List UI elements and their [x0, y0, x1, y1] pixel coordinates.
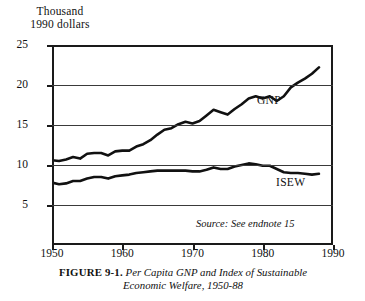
- x-tick-mark: [333, 245, 335, 250]
- y-tick-label: 10: [0, 158, 28, 170]
- caption-line-1: Per Capita GNP and Index of Sustainable: [126, 266, 308, 278]
- y-axis-title: Thousand 1990 dollars: [17, 5, 103, 30]
- caption-figure-number: FIGURE 9-1.: [59, 266, 123, 278]
- y-axis-title-line-1: Thousand: [17, 5, 103, 18]
- series-label-isew: ISEW: [276, 176, 305, 188]
- y-axis-title-line-2: 1990 dollars: [17, 18, 103, 31]
- figure-caption: FIGURE 9-1. Per Capita GNP and Index of …: [18, 266, 348, 292]
- figure-container: Thousand 1990 dollars 510152025 19501960…: [0, 0, 365, 301]
- gridline: [52, 165, 333, 166]
- x-tick-mark: [263, 245, 265, 250]
- x-tick-mark: [193, 245, 195, 250]
- x-tick-mark: [122, 245, 124, 250]
- gridline: [52, 125, 333, 126]
- source-note: Source: See endnote 15: [196, 218, 294, 229]
- y-tick-label: 15: [0, 118, 28, 130]
- plot-frame: [52, 45, 333, 245]
- series-label-gnp: GNP: [257, 94, 281, 106]
- y-tick-label: 5: [0, 198, 28, 210]
- y-tick-label: 20: [0, 78, 28, 90]
- gridline: [52, 205, 333, 206]
- caption-line-2: Economic Welfare, 1950-88: [123, 279, 243, 291]
- y-tick-label: 25: [0, 38, 28, 50]
- x-tick-mark: [52, 245, 54, 250]
- plot-area: [52, 45, 333, 245]
- gridline: [52, 85, 333, 86]
